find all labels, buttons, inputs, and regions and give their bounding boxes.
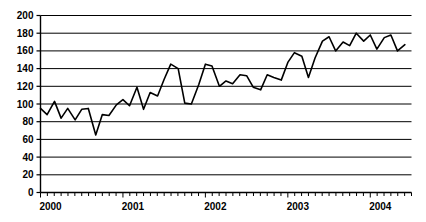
- y-axis-tick-label: 200: [17, 10, 34, 21]
- x-axis-tick-label: 2004: [369, 201, 392, 212]
- x-axis-tick-label: 2000: [39, 201, 62, 212]
- chart-container: 020406080100120140160180200 200020012002…: [0, 0, 426, 222]
- x-axis-tick-label: 2002: [204, 201, 227, 212]
- y-axis-tick-label: 40: [22, 152, 34, 163]
- x-axis-tick-label: 2001: [122, 201, 145, 212]
- y-axis-tick-label: 20: [22, 169, 34, 180]
- y-axis-tick-label: 120: [17, 81, 34, 92]
- y-axis-tick-label: 180: [17, 28, 34, 39]
- y-axis-tick-label: 80: [22, 116, 34, 127]
- y-axis-tick-label: 0: [28, 187, 34, 198]
- y-axis-tick-label: 140: [17, 63, 34, 74]
- chart-svg: 020406080100120140160180200 200020012002…: [0, 0, 426, 222]
- y-axis-tick-label: 160: [17, 45, 34, 56]
- y-axis-tick-label: 60: [22, 134, 34, 145]
- y-axis-tick-label: 100: [17, 99, 34, 110]
- x-axis-tick-label: 2003: [287, 201, 310, 212]
- line-chart: 020406080100120140160180200 200020012002…: [0, 0, 426, 222]
